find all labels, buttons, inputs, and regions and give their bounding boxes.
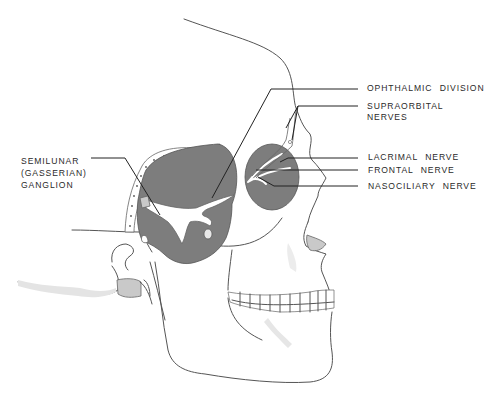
label-ophthalmic-division: OPHTHALMIC DIVISION: [367, 83, 485, 94]
condyle-region: [117, 279, 141, 298]
jaw-shading: [264, 318, 292, 348]
neck-shading: [18, 280, 116, 297]
label-supraorbital-line1: SUPRAORBITAL: [367, 101, 444, 112]
styloid-process: [140, 280, 152, 304]
foramen-marks: [140, 196, 150, 208]
nasal-cartilage: [307, 235, 326, 251]
label-supraorbital-nerves: SUPRAORBITAL NERVES: [367, 101, 444, 123]
label-semilunar-line3: GANGLION: [21, 179, 87, 191]
maxilla-shading: [287, 243, 296, 272]
label-nasociliary-nerve: NASOCILIARY NERVE: [368, 181, 477, 192]
ramus-back-outline: [150, 262, 165, 320]
skull-diagram: [0, 0, 499, 400]
label-semilunar-line1: SEMILUNAR: [21, 155, 87, 167]
label-supraorbital-line2: NERVES: [367, 112, 444, 123]
label-lacrimal-nerve: LACRIMAL NERVE: [368, 152, 459, 163]
mastoid-outline: [112, 244, 134, 270]
foramen-ovale: [204, 229, 212, 239]
label-semilunar-ganglion: SEMILUNAR (GASSERIAN) GANGLION: [21, 155, 87, 191]
maxilla-outline: [228, 250, 232, 290]
mandible-outline: [155, 262, 332, 383]
nose-outline: [304, 222, 332, 300]
label-semilunar-line2: (GASSERIAN): [21, 167, 87, 179]
teeth: [228, 290, 334, 312]
label-frontal-nerve: FRONTAL NERVE: [368, 165, 455, 176]
supraorbital-foramen: [288, 140, 291, 143]
